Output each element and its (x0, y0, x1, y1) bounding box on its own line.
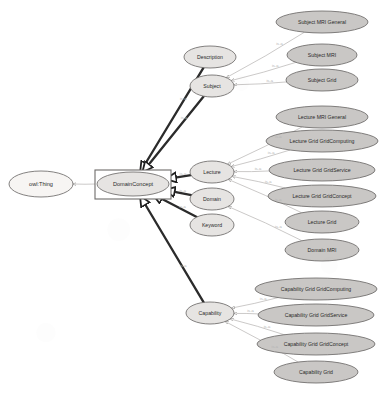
node-shape-descr (184, 46, 236, 68)
node-layer: owl:ThingDomainConceptDescriptionSubject… (9, 11, 378, 383)
node-lecture[interactable]: Lecture (190, 161, 234, 183)
node-shape-capgridgco (257, 333, 375, 355)
diagram-canvas: owl:ThingDomainConceptDescriptionSubject… (0, 0, 383, 396)
node-lecgrid[interactable]: Lecture Grid (285, 211, 359, 233)
node-descr[interactable]: Description (184, 46, 236, 68)
edge-capgridgc-to-capability (232, 298, 278, 309)
class-hierarchy-diagram: owl:ThingDomainConceptDescriptionSubject… (0, 0, 383, 396)
node-shape-capgrid (274, 361, 358, 383)
node-subjmrigen[interactable]: Subject MRI General (276, 11, 368, 33)
node-shape-lecgridgco (268, 185, 376, 207)
node-shape-keyword (190, 214, 234, 236)
node-keyword[interactable]: Keyword (190, 214, 234, 236)
node-lecgridgco[interactable]: Lecture Grid GridConcept (268, 185, 376, 207)
edge-lecgridgs-to-lecture (234, 171, 269, 172)
node-shape-lecgridgc (266, 130, 378, 152)
node-lecgridgs[interactable]: Lecture Grid GridService (269, 159, 375, 181)
edge-subjgrid-to-subject (234, 82, 287, 85)
node-shape-subject (190, 75, 234, 97)
edge-label-is-a: is-a (272, 63, 279, 68)
node-domain[interactable]: Domain (190, 188, 234, 210)
edge-label-is-a: is-a (247, 308, 254, 313)
edge-label-is-a: is-a (266, 78, 273, 83)
node-capgridgs[interactable]: Capability Grid GridService (258, 304, 374, 326)
node-shape-lecgrid (285, 211, 359, 233)
node-shape-lecture (190, 161, 234, 183)
node-shape-owlthing (9, 171, 73, 197)
edge-label-is-a: is-a (255, 166, 262, 171)
node-capgridgc[interactable]: Capability Grid GridComputing (255, 278, 377, 300)
edge-label-is-a: is-a (260, 296, 267, 301)
edge-capgridgs-to-capability (234, 313, 258, 314)
node-lecmrigen[interactable]: Lecture MRI General (276, 106, 368, 128)
node-subjmri[interactable]: Subject MRI (287, 44, 357, 66)
edge-label-is-a: is-a (268, 150, 275, 155)
edge-subject-to-domcon (142, 96, 203, 172)
node-shape-capability (186, 302, 234, 324)
node-lecgridgc[interactable]: Lecture Grid GridComputing (266, 130, 378, 152)
node-dommri[interactable]: Domain MRI (285, 239, 359, 261)
node-shape-subjgrid (286, 69, 358, 91)
node-shape-domain (190, 188, 234, 210)
node-shape-dommri (285, 239, 359, 261)
node-shape-lecgridgs (269, 159, 375, 181)
node-subjgrid[interactable]: Subject Grid (286, 69, 358, 91)
node-shape-capgridgs (258, 304, 374, 326)
node-capgridgco[interactable]: Capability Grid GridConcept (257, 333, 375, 355)
node-shape-capgridgc (255, 278, 377, 300)
node-shape-subjmrigen (276, 11, 368, 33)
node-shape-lecmrigen (276, 106, 368, 128)
node-subject[interactable]: Subject (190, 75, 234, 97)
node-domcon[interactable]: DomainConcept (97, 172, 169, 196)
node-owlthing[interactable]: owl:Thing (9, 171, 73, 197)
edge-label-is-a: is-a (275, 224, 282, 229)
edge-lecgridgco-to-lecture (232, 176, 285, 188)
edge-capability-to-domcon (140, 196, 204, 303)
node-capability[interactable]: Capability (186, 302, 234, 324)
node-capgrid[interactable]: Capability Grid (274, 361, 358, 383)
node-shape-subjmri (287, 44, 357, 66)
node-shape-domcon (97, 172, 169, 196)
